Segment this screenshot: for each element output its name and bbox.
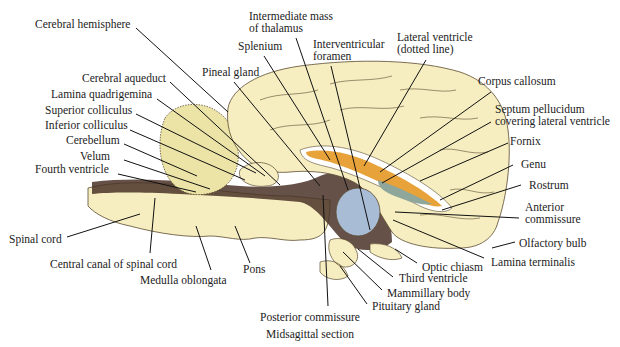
label-pons: Pons [243,263,265,275]
label-fornix: Fornix [510,135,541,147]
cerebellum-shape [160,104,238,194]
label-text-line2: commissure [525,213,581,225]
label-text: Lamina quadrigemina [51,88,152,100]
label-text: Corpus callosum [478,75,556,87]
label-velum: Velum [80,150,110,162]
label-septum-pellucidum: Septum pellucidumcovering lateral ventri… [495,103,610,127]
label-text: Inferior colliculus [45,119,128,131]
label-pineal-gland: Pineal gland [202,66,259,78]
label-text-line2: (dotted line) [397,43,473,55]
label-corpus-callosum: Corpus callosum [478,75,556,87]
intermediate-mass-shape [336,188,380,236]
label-text: Genu [521,158,546,170]
label-olfactory-bulb: Olfactory bulb [519,237,586,249]
label-text: Pituitary gland [372,300,440,312]
label-lateral-ventricle: Lateral ventricle(dotted line) [397,31,473,55]
label-text: Septum pellucidum [495,103,610,115]
label-text: Cerebral aqueduct [82,72,166,84]
label-text: Cerebral hemisphere [35,18,130,30]
label-spinal-cord: Spinal cord [9,233,62,245]
label-third-ventricle: Third ventricle [399,272,468,284]
label-lamina-terminalis: Lamina terminalis [491,256,575,268]
label-text: Splenium [238,40,282,52]
label-central-canal: Central canal of spinal cord [50,258,177,270]
brain-midsagittal-diagram: Cerebral hemisphereIntermediate massof t… [0,0,620,347]
label-mammillary-body: Mammillary body [387,287,470,299]
leader-line-olfactory-bulb [492,242,515,248]
label-text: Velum [80,150,110,162]
label-text: Pons [243,263,265,275]
label-text: Superior colliculus [45,104,132,116]
label-text: Posterior commissure [260,311,360,323]
label-text: Lateral ventricle [397,31,473,43]
label-text: Rostrum [529,179,569,191]
label-text: Cerebellum [66,134,120,146]
label-cerebral-aqueduct: Cerebral aqueduct [82,72,166,84]
label-text: Fornix [510,135,541,147]
label-text: Olfactory bulb [519,237,586,249]
label-cerebellum: Cerebellum [66,134,120,146]
label-lamina-quadrigemina: Lamina quadrigemina [51,88,152,100]
label-interventricular-foramen: Interventricularforamen [313,38,385,62]
label-text: Third ventricle [399,272,468,284]
label-text: Spinal cord [9,233,62,245]
label-text: Intermediate mass [249,10,333,22]
label-splenium: Splenium [238,40,282,52]
label-text: Mammillary body [387,287,470,299]
label-text: Medulla oblongata [140,274,227,286]
label-text: Interventricular [313,38,385,50]
label-genu: Genu [521,158,546,170]
label-text-line2: foramen [313,50,385,62]
label-superior-colliculus: Superior colliculus [45,104,132,116]
label-rostrum: Rostrum [529,179,569,191]
label-cerebral-hemisphere: Cerebral hemisphere [35,18,130,30]
label-text: Fourth ventricle [35,163,109,175]
diagram-caption: Midsagittal section [0,328,620,340]
label-fourth-ventricle: Fourth ventricle [35,163,109,175]
label-text-line2: of thalamus [249,22,333,34]
label-anterior-commissure: Anteriorcommissure [525,201,581,225]
label-text: Pineal gland [202,66,259,78]
label-medulla-oblongata: Medulla oblongata [140,274,227,286]
label-text-line2: covering lateral ventricle [495,115,610,127]
leader-line-mammillary-body [343,252,382,290]
label-inferior-colliculus: Inferior colliculus [45,119,128,131]
label-text: Central canal of spinal cord [50,258,177,270]
label-posterior-commissure: Posterior commissure [260,311,360,323]
label-pituitary-gland: Pituitary gland [372,300,440,312]
label-intermediate-mass: Intermediate massof thalamus [249,10,333,34]
label-text: Lamina terminalis [491,256,575,268]
label-text: Anterior [525,201,581,213]
